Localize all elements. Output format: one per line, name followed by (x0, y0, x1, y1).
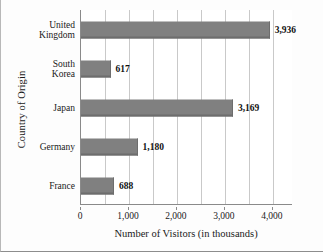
y-axis-tick-label: Japan (9, 102, 75, 113)
bar-value-label: 1,180 (143, 142, 164, 152)
bar-value-label: 3,936 (275, 25, 296, 35)
x-axis-tick-labels: 01,0002,0003,0004,000 (80, 207, 292, 221)
x-axis-tick-mark (176, 207, 177, 210)
x-axis-tick-mark (272, 207, 273, 210)
bar-value-label: 617 (116, 64, 130, 74)
y-axis-tick-label: South Korea (9, 58, 75, 79)
gridline (273, 10, 274, 204)
x-axis-tick-label: 4,000 (261, 211, 282, 221)
bar (81, 99, 233, 116)
y-axis-tick-labels: United KingdomSouth KoreaJapanGermanyFra… (9, 10, 75, 205)
x-axis-tick-label: 2,000 (165, 211, 186, 221)
x-axis-tick-mark (128, 207, 129, 210)
y-axis-tick-label: United Kingdom (9, 19, 75, 40)
bar (81, 21, 270, 38)
y-axis-tick-label: France (9, 180, 75, 191)
bar (81, 138, 138, 155)
x-axis-tick-mark (224, 207, 225, 210)
bar-value-label: 3,169 (238, 103, 259, 113)
bar-value-label: 688 (119, 181, 133, 191)
x-axis-tick-label: 0 (78, 211, 83, 221)
x-axis-tick-label: 3,000 (213, 211, 234, 221)
x-axis-tick-label: 1,000 (117, 211, 138, 221)
plot-area: 3,9366173,1691,180688 (80, 10, 292, 205)
x-axis-title: Number of Visitors (in thousands) (80, 228, 292, 239)
bar-chart-figure: Country of Origin United KingdomSouth Ko… (0, 0, 323, 252)
y-axis-tick-label: Germany (9, 141, 75, 152)
bar (81, 60, 111, 77)
bar (81, 177, 114, 194)
x-axis-tick-mark (80, 207, 81, 210)
